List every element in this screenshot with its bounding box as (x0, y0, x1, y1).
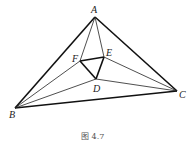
segment-fd (80, 61, 96, 79)
segment-bf (15, 61, 80, 108)
label-a: A (90, 4, 98, 15)
segment-ef (80, 57, 104, 61)
label-b: B (9, 109, 15, 120)
label-e: E (105, 47, 112, 58)
figure-caption: 图 4.7 (81, 132, 104, 141)
segment-de (96, 57, 104, 79)
label-d: D (92, 83, 101, 94)
outer-triangle-abc (15, 17, 177, 108)
label-f: F (71, 53, 79, 64)
segment-af (80, 17, 95, 61)
geometry-figure: A B C D E F 图 4.7 (0, 0, 189, 141)
label-c: C (179, 89, 186, 100)
segment-ab (15, 17, 95, 108)
inner-triangle-def (80, 57, 104, 79)
